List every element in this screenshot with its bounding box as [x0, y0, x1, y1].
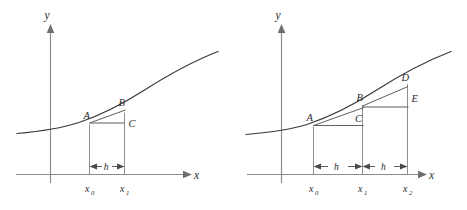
right-curve — [246, 52, 451, 135]
right-point-label-c: C — [355, 113, 363, 124]
left-curve — [17, 52, 218, 134]
left-tick-x1-sub: 1 — [126, 189, 129, 196]
right-chord-bd — [363, 87, 409, 107]
right-tick-x1-sub: 1 — [364, 189, 367, 196]
right-point-label-a: A — [306, 112, 314, 123]
left-tick-x0-sub: 0 — [91, 189, 95, 196]
right-step-measure-2: h — [363, 162, 408, 172]
right-tick-x1-base: x — [357, 183, 363, 194]
right-step-measure-1: h — [314, 162, 363, 172]
left-tick-x1: x 1 — [119, 183, 129, 196]
right-tick-x2: x 2 — [402, 183, 413, 196]
right-tick-x2-base: x — [402, 183, 408, 194]
left-tick-x0: x 0 — [84, 183, 95, 196]
right-x-axis — [247, 171, 427, 179]
right-y-axis-label: y — [275, 9, 282, 22]
left-point-label-b: B — [119, 97, 126, 108]
left-x-axis — [16, 171, 192, 179]
right-tick-x2-sub: 2 — [409, 189, 413, 196]
right-tick-x0-base: x — [308, 183, 314, 194]
left-step-measure: h — [90, 162, 125, 172]
right-point-label-b: B — [357, 92, 364, 103]
left-x-axis-label: x — [193, 169, 200, 181]
left-tick-x0-base: x — [84, 183, 90, 194]
right-y-axis — [278, 24, 286, 183]
right-diagram: x y A B C D E h — [233, 0, 467, 210]
right-point-label-d: D — [401, 72, 410, 83]
right-step-label-h-2: h — [381, 162, 386, 172]
figure-root: x y A B C h x 0 x 1 — [0, 0, 467, 210]
right-tick-x0-sub: 0 — [315, 189, 319, 196]
right-point-label-e: E — [411, 93, 419, 104]
right-tick-x0: x 0 — [308, 183, 319, 196]
left-point-label-c: C — [129, 118, 137, 129]
left-diagram: x y A B C h x 0 x 1 — [0, 0, 233, 210]
left-y-axis-label: y — [44, 9, 51, 22]
left-tick-x1-base: x — [119, 183, 125, 194]
right-tick-x1: x 1 — [357, 183, 367, 196]
left-y-axis — [47, 24, 55, 183]
right-x-axis-label: x — [428, 169, 435, 181]
right-step-label-h-1: h — [334, 162, 339, 172]
left-point-label-a: A — [83, 110, 91, 121]
left-step-label-h: h — [104, 162, 109, 172]
